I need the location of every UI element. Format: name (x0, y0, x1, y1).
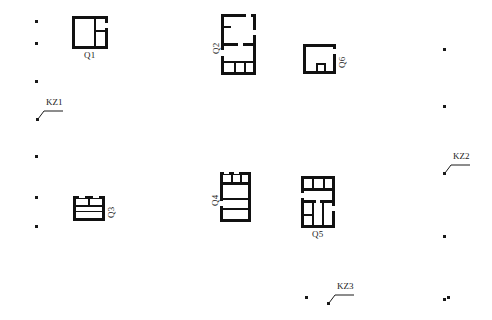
structure-q1[interactable]: Q1 (72, 16, 110, 51)
survey-point (35, 42, 38, 45)
survey-point (447, 296, 450, 299)
structure-q2[interactable]: Q2 (221, 14, 258, 77)
structure-label-q5: Q5 (312, 230, 323, 239)
survey-point (35, 225, 38, 228)
site-plan-canvas: Q1 Q2 (0, 0, 492, 320)
structure-label-q2: Q2 (212, 42, 221, 53)
structure-q6[interactable]: Q6 (303, 44, 338, 76)
annotation-kz1[interactable]: KZ1 (34, 98, 74, 124)
survey-point (35, 196, 38, 199)
annotation-kz3[interactable]: KZ3 (325, 282, 365, 308)
annotation-kz2[interactable]: KZ2 (441, 152, 481, 178)
structure-q4[interactable]: Q4 (220, 172, 253, 224)
structure-label-q3: Q3 (107, 206, 116, 217)
survey-point (443, 298, 446, 301)
structure-label-q6: Q6 (338, 57, 347, 68)
survey-point (305, 296, 308, 299)
survey-point (35, 20, 38, 23)
survey-point (443, 105, 446, 108)
survey-point (443, 235, 446, 238)
structure-q5[interactable]: Q5 (301, 176, 337, 230)
structure-label-q4: Q4 (211, 195, 220, 206)
survey-point (35, 80, 38, 83)
structure-q3[interactable]: Q3 (73, 196, 107, 223)
survey-point (443, 48, 446, 51)
survey-point (35, 155, 38, 158)
structure-label-q1: Q1 (84, 51, 95, 60)
